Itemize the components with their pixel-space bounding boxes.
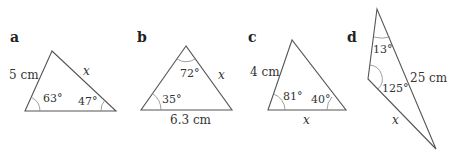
triangle-a — [25, 51, 116, 111]
angle-label-c-right: 40° — [311, 93, 331, 106]
side-label-a-left: 5 cm — [9, 68, 39, 82]
panel-label-d: d — [347, 29, 357, 45]
angle-arc-b-left — [153, 94, 162, 110]
angle-label-a-right: 47° — [78, 95, 98, 108]
panel-a: a 5 cm x 63° 47° — [9, 29, 116, 111]
triangles-figure: a 5 cm x 63° 47° b x 72° 35° 6.3 cm c 4 … — [0, 0, 454, 156]
angle-label-d-top: 13° — [373, 43, 393, 56]
side-label-c-bottom: x — [303, 113, 310, 127]
panel-label-b: b — [137, 29, 147, 45]
triangle-c — [268, 40, 346, 110]
angle-label-b-top: 72° — [180, 67, 200, 80]
panel-c: c 4 cm 81° 40° x — [248, 29, 346, 127]
angle-label-b-left: 35° — [162, 93, 182, 106]
side-label-d-right: 25 cm — [410, 71, 448, 85]
panel-label-a: a — [10, 29, 19, 45]
side-label-a-right: x — [83, 64, 90, 78]
panel-b: b x 72° 35° 6.3 cm — [137, 29, 232, 127]
side-label-b-right: x — [218, 68, 225, 82]
angle-arc-a-right — [101, 100, 105, 111]
angle-arc-d-left — [370, 65, 382, 89]
angle-arc-d-top — [374, 37, 390, 38]
angle-label-c-left: 81° — [283, 90, 303, 103]
angle-arc-b-top — [177, 59, 195, 62]
angle-label-d-left: 125° — [382, 82, 409, 95]
panel-label-c: c — [248, 29, 257, 45]
side-label-c-left: 4 cm — [250, 65, 280, 79]
angle-label-a-left: 63° — [43, 92, 63, 105]
side-label-b-bottom: 6.3 cm — [170, 113, 212, 127]
side-label-d-bottom: x — [392, 113, 399, 127]
panel-d: d 13° 125° 25 cm x — [347, 9, 448, 149]
angle-arc-a-left — [32, 98, 40, 111]
